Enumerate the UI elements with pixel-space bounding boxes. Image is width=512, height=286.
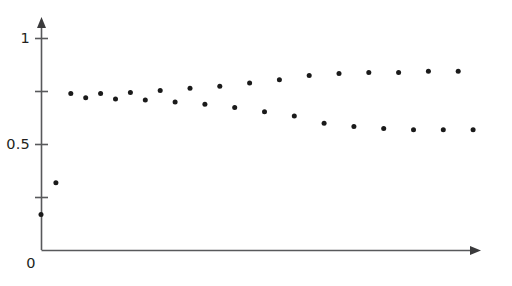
data-point bbox=[426, 69, 431, 74]
data-point bbox=[337, 71, 342, 76]
data-point bbox=[247, 81, 252, 86]
data-point bbox=[83, 95, 88, 100]
data-point bbox=[396, 70, 401, 75]
data-point bbox=[232, 105, 237, 110]
data-point bbox=[202, 102, 207, 107]
y-axis-label-1: 1 bbox=[21, 30, 30, 46]
data-point bbox=[188, 86, 193, 91]
data-point bbox=[262, 109, 267, 114]
data-point bbox=[366, 70, 371, 75]
data-point bbox=[158, 88, 163, 93]
data-point bbox=[292, 113, 297, 118]
scatter-plot-figure: 1 0.5 0 bbox=[0, 0, 512, 286]
data-point bbox=[456, 69, 461, 74]
data-point bbox=[217, 84, 222, 89]
data-point bbox=[411, 127, 416, 132]
data-point bbox=[307, 73, 312, 78]
plot-canvas: 1 0.5 0 bbox=[0, 0, 512, 286]
x-axis-arrow-icon bbox=[470, 246, 481, 255]
data-point bbox=[143, 97, 148, 102]
data-point-layer bbox=[39, 69, 476, 217]
data-point bbox=[128, 90, 133, 95]
origin-label: 0 bbox=[26, 255, 35, 271]
data-point bbox=[322, 121, 327, 126]
data-point bbox=[98, 91, 103, 96]
data-point bbox=[173, 100, 178, 105]
data-point bbox=[39, 212, 44, 217]
data-point bbox=[441, 127, 446, 132]
y-axis-arrow-icon bbox=[37, 17, 46, 28]
data-point bbox=[471, 127, 476, 132]
data-point bbox=[68, 91, 73, 96]
data-point bbox=[277, 77, 282, 82]
data-point bbox=[53, 180, 58, 185]
data-point bbox=[381, 126, 386, 131]
y-axis-label-0p5: 0.5 bbox=[6, 136, 30, 152]
data-point bbox=[351, 124, 356, 129]
axis-labels: 1 0.5 0 bbox=[6, 30, 35, 271]
x-axis-group bbox=[42, 246, 482, 255]
data-point bbox=[113, 96, 118, 101]
